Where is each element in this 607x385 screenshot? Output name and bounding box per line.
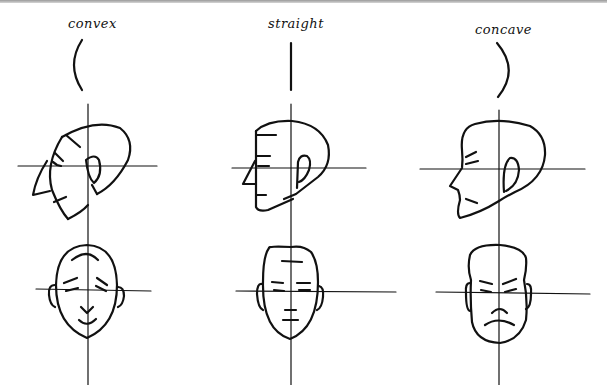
straight-side-head bbox=[232, 104, 366, 385]
concave-front-head bbox=[436, 245, 590, 343]
convex-curve-icon bbox=[74, 40, 82, 90]
profile-drawings bbox=[0, 0, 607, 385]
straight-front-head bbox=[236, 247, 396, 339]
concave-curve-icon bbox=[497, 43, 509, 97]
concave-side-head bbox=[420, 110, 585, 385]
convex-front-head bbox=[36, 245, 151, 338]
